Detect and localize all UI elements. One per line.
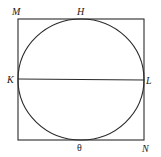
inscribed-circle-diagram: M H K L θ N xyxy=(0,0,161,157)
label-m: M xyxy=(11,6,21,17)
label-theta: θ xyxy=(77,142,82,153)
label-h: H xyxy=(76,6,85,17)
label-k: K xyxy=(6,74,15,85)
label-l: L xyxy=(145,75,152,86)
diameter-kl xyxy=(18,79,144,80)
label-n: N xyxy=(141,143,150,154)
